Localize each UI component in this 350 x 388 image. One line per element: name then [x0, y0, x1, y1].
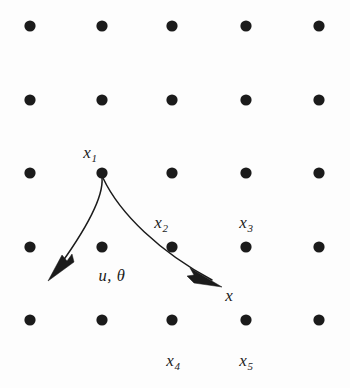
arrow-head-left-branch	[48, 254, 74, 281]
lattice-dot	[96, 94, 107, 105]
math-label-x1: x1	[83, 144, 96, 161]
label-subscript: 1	[92, 152, 98, 164]
lattice-dot	[96, 241, 107, 252]
label-base: x	[239, 213, 247, 232]
math-label-x5: x5	[239, 352, 252, 369]
lattice-dot	[240, 94, 251, 105]
label-subscript: 2	[163, 222, 169, 234]
lattice-dot	[313, 167, 324, 178]
label-base: u, θ	[98, 266, 125, 285]
math-label-x2: x2	[154, 214, 167, 231]
lattice-dot	[313, 20, 324, 31]
lattice-figure: x1x2x3x4x5xu, θ	[0, 0, 350, 388]
lattice-dot	[96, 167, 107, 178]
math-label-x4: x4	[166, 352, 179, 369]
trajectory-group	[48, 178, 222, 287]
lattice-dot	[24, 94, 35, 105]
lattice-dot	[313, 314, 324, 325]
label-subscript: 5	[248, 360, 254, 372]
lattice-dot	[240, 167, 251, 178]
lattice-dot	[240, 241, 251, 252]
label-base: x	[166, 351, 174, 370]
label-subscript: 3	[248, 222, 254, 234]
arrow-head-right-branch	[187, 268, 222, 287]
lattice-dot	[24, 20, 35, 31]
label-base: x	[83, 143, 91, 162]
math-label-u-theta: u, θ	[98, 268, 125, 285]
lattice-dot	[166, 241, 177, 252]
lattice-dot	[24, 167, 35, 178]
label-base: x	[225, 286, 233, 305]
label-base: x	[239, 351, 247, 370]
lattice-dot	[24, 314, 35, 325]
figure-canvas	[0, 0, 350, 388]
lattice-dot	[166, 94, 177, 105]
lattice-dot	[240, 20, 251, 31]
lattice-dot	[313, 94, 324, 105]
lattice-dot	[166, 167, 177, 178]
lattice-dot	[166, 314, 177, 325]
lattice-dot	[24, 241, 35, 252]
lattice-dot	[313, 241, 324, 252]
lattice-dot-grid	[24, 20, 324, 325]
label-base: x	[154, 213, 162, 232]
lattice-dot	[240, 314, 251, 325]
lattice-dot	[166, 20, 177, 31]
lattice-dot	[96, 314, 107, 325]
lattice-dot	[96, 20, 107, 31]
math-label-x-terminal: x	[225, 287, 233, 304]
label-subscript: 4	[175, 360, 181, 372]
math-label-x3: x3	[239, 214, 252, 231]
